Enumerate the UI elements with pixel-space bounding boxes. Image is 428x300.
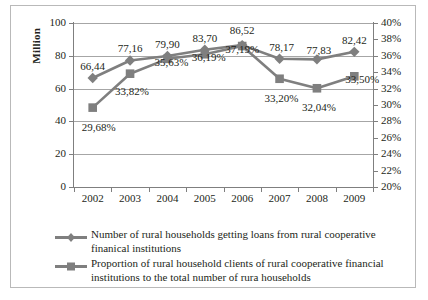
y-axis-title-left: Million bbox=[30, 28, 42, 64]
x-tick bbox=[111, 188, 112, 192]
y-tick-left bbox=[69, 154, 73, 155]
y-tick-label-right: 40% bbox=[381, 17, 401, 28]
y-tick-right bbox=[374, 138, 378, 139]
data-point-label: 83,70 bbox=[192, 33, 217, 44]
x-tick bbox=[298, 188, 299, 192]
data-point-label: 86,52 bbox=[230, 25, 255, 36]
data-point-label: 77,16 bbox=[118, 43, 143, 54]
x-tick bbox=[261, 188, 262, 192]
x-tick bbox=[74, 188, 75, 192]
data-point-label: 77,83 bbox=[307, 45, 332, 56]
x-tick-label: 2006 bbox=[231, 193, 253, 204]
y-tick-left bbox=[69, 187, 73, 188]
y-tick-left bbox=[69, 56, 73, 57]
data-point-label: 33,20% bbox=[265, 93, 299, 104]
legend-square-marker-icon bbox=[55, 261, 87, 272]
y-tick-label-right: 24% bbox=[381, 148, 401, 159]
y-tick-right bbox=[374, 39, 378, 40]
y-tick-label-right: 36% bbox=[381, 50, 401, 61]
legend-diamond-marker-icon bbox=[55, 232, 87, 243]
y-tick-label-right: 30% bbox=[381, 99, 401, 110]
legend-item-series1: Number of rural households getting loans… bbox=[55, 228, 395, 255]
data-point-square bbox=[313, 84, 322, 93]
data-point-label: 29,68% bbox=[82, 122, 116, 133]
legend-label-series2: Proportion of rural household clients of… bbox=[91, 257, 395, 284]
data-point-square bbox=[88, 103, 97, 112]
x-tick-label: 2009 bbox=[343, 193, 365, 204]
data-point-diamond bbox=[274, 54, 284, 64]
y-tick-right bbox=[374, 89, 378, 90]
x-tick bbox=[373, 188, 374, 192]
data-point-label: 78,17 bbox=[269, 42, 294, 53]
y-tick-label-right: 26% bbox=[381, 132, 401, 143]
y-tick-label-left: 80 bbox=[55, 50, 66, 61]
plot-area: 020406080100 20%22%24%26%28%30%32%34%36%… bbox=[74, 23, 373, 187]
data-point-label: 36,19% bbox=[192, 52, 226, 63]
y-tick-label-right: 32% bbox=[381, 83, 401, 94]
data-point-label: 32,04% bbox=[302, 102, 336, 113]
x-tick-label: 2008 bbox=[306, 193, 328, 204]
x-tick-label: 2004 bbox=[156, 193, 178, 204]
y-tick-label-right: 34% bbox=[381, 66, 401, 77]
y-tick-left bbox=[69, 23, 73, 24]
x-tick-label: 2007 bbox=[269, 193, 291, 204]
x-tick bbox=[336, 188, 337, 192]
data-point-label: 37,19% bbox=[225, 44, 259, 55]
chart-figure: Million 020406080100 20%22%24%26%28%30%3… bbox=[10, 5, 416, 288]
x-tick-label: 2005 bbox=[194, 193, 216, 204]
y-tick-right bbox=[374, 154, 378, 155]
y-tick-label-left: 100 bbox=[50, 17, 67, 28]
data-point-label: 33,82% bbox=[115, 86, 149, 97]
data-point-square bbox=[126, 69, 135, 78]
x-tick-label: 2003 bbox=[119, 193, 141, 204]
data-point-label: 35,63% bbox=[154, 57, 188, 68]
y-tick-right bbox=[374, 56, 378, 57]
y-tick-label-left: 20 bbox=[55, 148, 66, 159]
legend-item-series2: Proportion of rural household clients of… bbox=[55, 257, 395, 284]
y-tick-right bbox=[374, 171, 378, 172]
data-point-square bbox=[275, 74, 284, 83]
y-tick-label-left: 0 bbox=[61, 181, 67, 192]
y-tick-label-right: 20% bbox=[381, 181, 401, 192]
y-tick-label-left: 40 bbox=[55, 115, 66, 126]
y-tick-label-right: 22% bbox=[381, 165, 401, 176]
x-tick bbox=[186, 188, 187, 192]
data-point-label: 66,44 bbox=[80, 61, 105, 72]
chart-legend: Number of rural households getting loans… bbox=[55, 228, 395, 286]
data-point-label: 33,50% bbox=[345, 74, 379, 85]
y-tick-right bbox=[374, 23, 378, 24]
y-tick-right bbox=[374, 187, 378, 188]
y-tick-label-right: 38% bbox=[381, 33, 401, 44]
y-tick-left bbox=[69, 89, 73, 90]
data-point-diamond bbox=[125, 55, 135, 65]
data-point-label: 82,42 bbox=[342, 35, 367, 46]
chart-plot-region: Million 020406080100 20%22%24%26%28%30%3… bbox=[11, 6, 417, 218]
data-point-diamond bbox=[87, 73, 97, 83]
x-tick-label: 2002 bbox=[82, 193, 104, 204]
y-tick-left bbox=[69, 121, 73, 122]
x-tick bbox=[149, 188, 150, 192]
data-point-diamond bbox=[349, 47, 359, 57]
y-tick-right bbox=[374, 121, 378, 122]
legend-label-series1: Number of rural households getting loans… bbox=[91, 228, 395, 255]
y-tick-label-right: 28% bbox=[381, 115, 401, 126]
data-point-label: 79,90 bbox=[155, 39, 180, 50]
x-tick bbox=[224, 188, 225, 192]
y-tick-label-left: 60 bbox=[55, 83, 66, 94]
y-tick-right bbox=[374, 105, 378, 106]
